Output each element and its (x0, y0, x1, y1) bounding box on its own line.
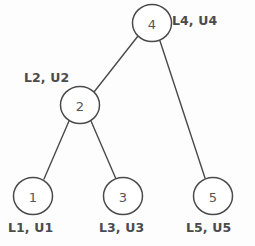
tree-diagram: 4 2 1 3 5 L4, U4 L2, U2 L1, U1 L3, U3 L5… (0, 0, 255, 246)
node-4-label: 4 (148, 17, 156, 32)
node-2[interactable]: 2 (61, 87, 100, 124)
node-5-annotation: L5, U5 (186, 222, 231, 235)
node-2-annotation: L2, U2 (24, 72, 69, 85)
node-3[interactable]: 3 (104, 178, 143, 215)
node-1[interactable]: 1 (14, 178, 53, 215)
node-1-annotation: L1, U1 (8, 222, 53, 235)
edge-4-to-2 (94, 36, 138, 92)
node-3-annotation: L3, U3 (99, 222, 144, 235)
node-1-label: 1 (29, 190, 37, 205)
node-3-label: 3 (119, 190, 127, 205)
edge-2-to-1 (44, 121, 69, 179)
node-4[interactable]: 4 (133, 5, 172, 42)
node-5-label: 5 (209, 190, 217, 205)
node-4-annotation: L4, U4 (172, 15, 217, 28)
node-5[interactable]: 5 (194, 178, 233, 215)
edge-4-to-5 (160, 41, 205, 178)
edge-2-to-3 (91, 121, 116, 179)
node-2-label: 2 (76, 99, 84, 114)
tree-canvas: 4 2 1 3 5 (0, 0, 255, 246)
